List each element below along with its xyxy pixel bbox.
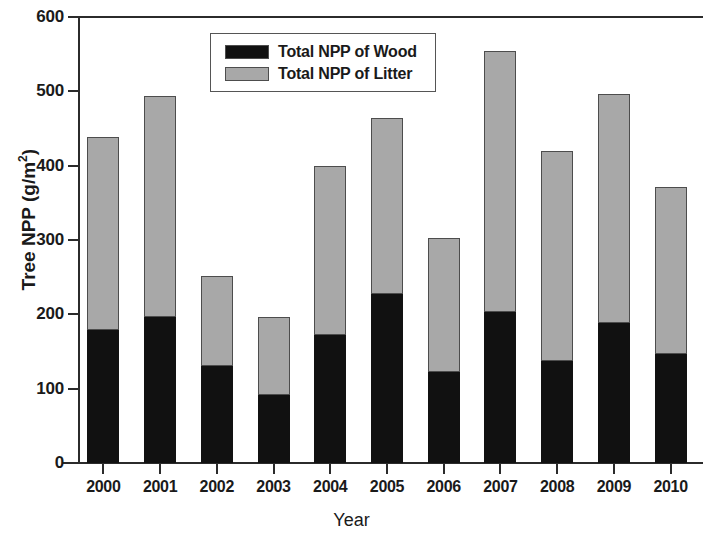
x-axis-tick bbox=[443, 463, 445, 474]
bar-group[interactable] bbox=[541, 151, 573, 463]
bar-segment-wood[interactable] bbox=[258, 395, 290, 463]
x-axis-tick bbox=[216, 463, 218, 474]
x-axis-tick bbox=[102, 463, 104, 474]
x-axis-tick-label: 2004 bbox=[300, 479, 360, 495]
y-axis-tick bbox=[68, 313, 79, 315]
x-axis-tick bbox=[556, 463, 558, 474]
legend-label-wood: Total NPP of Wood bbox=[278, 43, 417, 61]
bar-segment-wood[interactable] bbox=[541, 361, 573, 463]
x-axis-tick bbox=[613, 463, 615, 474]
x-axis-tick-label: 2008 bbox=[527, 479, 587, 495]
bar-segment-litter[interactable] bbox=[87, 137, 119, 330]
y-axis-title-end: ) bbox=[18, 149, 39, 155]
bar-segment-litter[interactable] bbox=[371, 118, 403, 294]
bar-group[interactable] bbox=[314, 166, 346, 463]
x-axis-tick bbox=[670, 463, 672, 474]
bar-segment-litter[interactable] bbox=[598, 94, 630, 324]
legend-item-wood: Total NPP of Wood bbox=[225, 41, 435, 63]
y-axis-tick bbox=[68, 16, 79, 18]
bar-group[interactable] bbox=[258, 317, 290, 463]
x-axis-tick-label: 2005 bbox=[357, 479, 417, 495]
bar-segment-wood[interactable] bbox=[428, 372, 460, 463]
y-axis-tick bbox=[68, 90, 79, 92]
bar-segment-litter[interactable] bbox=[201, 276, 233, 366]
y-axis-tick bbox=[68, 165, 79, 167]
y-axis-tick-label: 0 bbox=[24, 454, 64, 471]
legend-item-litter: Total NPP of Litter bbox=[225, 63, 435, 85]
y-axis-tick-label: 100 bbox=[24, 380, 64, 397]
bar-segment-wood[interactable] bbox=[371, 294, 403, 463]
bar-segment-litter[interactable] bbox=[484, 51, 516, 312]
bar-group[interactable] bbox=[87, 137, 119, 463]
y-axis-tick bbox=[68, 388, 79, 390]
bar-segment-wood[interactable] bbox=[655, 354, 687, 463]
y-axis-tick-label: 600 bbox=[24, 8, 64, 25]
y-axis-title-exponent: 2 bbox=[16, 155, 30, 162]
x-axis-tick-label: 2010 bbox=[641, 479, 701, 495]
bar-segment-litter[interactable] bbox=[655, 187, 687, 354]
x-axis-tick bbox=[386, 463, 388, 474]
x-axis-tick-label: 2003 bbox=[244, 479, 304, 495]
x-axis-tick-label: 2007 bbox=[470, 479, 530, 495]
x-axis-tick bbox=[159, 463, 161, 474]
bar-group[interactable] bbox=[428, 238, 460, 463]
y-axis-tick bbox=[68, 462, 79, 464]
y-axis-tick bbox=[68, 239, 79, 241]
bar-segment-wood[interactable] bbox=[144, 317, 176, 463]
bar-group[interactable] bbox=[484, 51, 516, 463]
x-axis-tick bbox=[273, 463, 275, 474]
x-axis-tick bbox=[329, 463, 331, 474]
x-axis-tick-label: 2001 bbox=[130, 479, 190, 495]
x-axis-tick bbox=[499, 463, 501, 474]
bar-group[interactable] bbox=[371, 118, 403, 463]
y-axis-title-main: Tree NPP (g/m bbox=[18, 162, 39, 290]
bar-group[interactable] bbox=[201, 276, 233, 463]
x-axis-title: Year bbox=[0, 510, 703, 531]
x-axis-tick-label: 2002 bbox=[187, 479, 247, 495]
chart-figure: 0100200300400500600 Tree NPP (g/m2) 2000… bbox=[0, 0, 703, 537]
bar-segment-litter[interactable] bbox=[314, 166, 346, 335]
bar-group[interactable] bbox=[144, 96, 176, 463]
x-axis-tick-label: 2009 bbox=[584, 479, 644, 495]
gray-swatch-icon bbox=[225, 67, 269, 81]
black-swatch-icon bbox=[225, 45, 269, 59]
y-axis-title: Tree NPP (g/m2) bbox=[16, 100, 39, 340]
chart-legend: Total NPP of Wood Total NPP of Litter bbox=[210, 33, 436, 92]
bar-segment-litter[interactable] bbox=[144, 96, 176, 318]
x-axis-tick-label: 2006 bbox=[414, 479, 474, 495]
bar-segment-litter[interactable] bbox=[541, 151, 573, 361]
bar-segment-wood[interactable] bbox=[484, 312, 516, 463]
bar-segment-wood[interactable] bbox=[201, 366, 233, 463]
bar-group[interactable] bbox=[655, 187, 687, 463]
bar-segment-litter[interactable] bbox=[258, 317, 290, 396]
legend-label-litter: Total NPP of Litter bbox=[278, 65, 412, 83]
y-axis-tick-label: 500 bbox=[24, 82, 64, 99]
bar-segment-wood[interactable] bbox=[314, 335, 346, 463]
bar-segment-wood[interactable] bbox=[598, 323, 630, 463]
bar-segment-litter[interactable] bbox=[428, 238, 460, 373]
x-axis-tick-label: 2000 bbox=[73, 479, 133, 495]
bar-segment-wood[interactable] bbox=[87, 330, 119, 463]
bar-group[interactable] bbox=[598, 94, 630, 463]
